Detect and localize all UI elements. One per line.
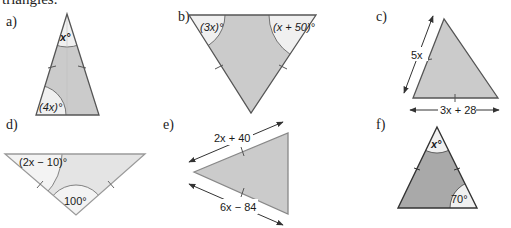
- triangle-c: 5x 3x + 28: [404, 16, 499, 117]
- angle-label: (4x)°: [39, 101, 63, 113]
- side-label: 6x − 84: [220, 201, 256, 213]
- side-label: 3x + 28: [440, 104, 476, 116]
- angle-label: 70°: [451, 193, 468, 205]
- angle-label: (x + 50)°: [273, 21, 316, 33]
- triangle-a: x° (4x)°: [6, 0, 100, 145]
- angle-label: (2x − 10)°: [19, 156, 67, 168]
- triangle-d: (2x − 10)° 100°: [0, 97, 145, 228]
- triangle-f: x° 70°: [398, 101, 504, 228]
- triangle-b: (3x)° (x + 50)°: [153, 0, 363, 113]
- side-label: 5x: [411, 49, 423, 61]
- angle-label: 100°: [64, 195, 87, 207]
- triangles-drawing: x° (4x)° (3x)° (x + 50)° 5x 3: [0, 0, 511, 228]
- side-label: 2x + 40: [214, 132, 250, 144]
- angle-label: (3x)°: [200, 21, 224, 33]
- triangle-e: 2x + 40 6x − 84: [189, 122, 288, 225]
- angle-label: x°: [430, 138, 442, 150]
- isosceles-triangle-exercises: triangles. a) b) c) d) e) f) x°: [0, 0, 511, 228]
- angle-label: x°: [59, 31, 71, 43]
